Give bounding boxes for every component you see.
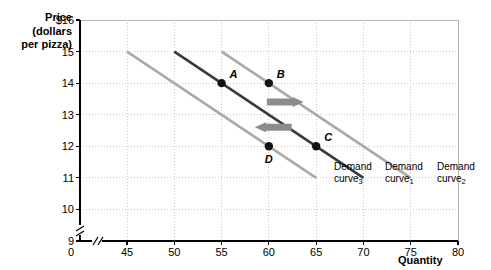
origin-label: 0 bbox=[40, 247, 74, 258]
x-tick-label-70: 70 bbox=[348, 247, 378, 258]
shift-left-arrow bbox=[255, 122, 292, 132]
data-point-C bbox=[312, 142, 320, 150]
demand-curve-label-3: Demandcurve3 bbox=[334, 161, 372, 185]
x-tick-label-80: 80 bbox=[443, 247, 473, 258]
axes bbox=[76, 20, 458, 245]
x-tick-label-50: 50 bbox=[159, 247, 189, 258]
x-tick-label-45: 45 bbox=[112, 247, 142, 258]
x-tick-label-55: 55 bbox=[207, 247, 237, 258]
demand-curve-label-line-1: Demand bbox=[385, 161, 423, 173]
y-tick-label-13: 13 bbox=[40, 110, 74, 121]
x-tick-label-75: 75 bbox=[396, 247, 426, 258]
demand-curve-label-line-2: curve2 bbox=[437, 173, 475, 186]
demand-curve-label-subscript: 2 bbox=[461, 177, 465, 186]
y-tick-label-16: $16 bbox=[40, 15, 74, 26]
y-tick-label-14: 14 bbox=[40, 78, 74, 89]
shift-right-arrow bbox=[267, 97, 304, 107]
demand-curve-label-line-2: curve3 bbox=[334, 173, 372, 186]
demand-curve-shift-chart: Price (dollars per pizza) Quantity $1615… bbox=[0, 0, 491, 270]
y-axis-title-line-2: (dollars bbox=[0, 25, 72, 39]
demand-curve-label-2: Demandcurve2 bbox=[437, 161, 475, 185]
point-label-A: A bbox=[230, 69, 238, 80]
point-label-B: B bbox=[277, 69, 285, 80]
plot-area bbox=[80, 20, 458, 241]
data-point-B bbox=[265, 79, 273, 87]
y-tick-label-11: 11 bbox=[40, 173, 74, 184]
point-label-D: D bbox=[265, 154, 273, 165]
demand-curve-label-line-1: Demand bbox=[334, 161, 372, 173]
point-label-C: C bbox=[324, 132, 332, 143]
x-tick-label-65: 65 bbox=[301, 247, 331, 258]
demand-curve-label-subscript: 1 bbox=[409, 177, 413, 186]
data-point-A bbox=[217, 79, 225, 87]
demand-curve-label-line-2: curve1 bbox=[385, 173, 423, 186]
y-tick-label-12: 12 bbox=[40, 141, 74, 152]
demand-curve-label-subscript: 3 bbox=[358, 177, 362, 186]
data-point-D bbox=[265, 142, 273, 150]
y-tick-label-15: 15 bbox=[40, 47, 74, 58]
x-tick-label-60: 60 bbox=[254, 247, 284, 258]
plot-svg bbox=[80, 20, 458, 241]
y-tick-label-10: 10 bbox=[40, 204, 74, 215]
demand-curve-label-line-1: Demand bbox=[437, 161, 475, 173]
demand-curve-label-1: Demandcurve1 bbox=[385, 161, 423, 185]
